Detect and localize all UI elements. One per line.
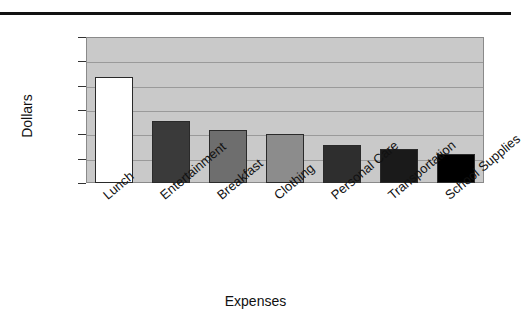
bar-slot [86, 37, 143, 183]
bar-chart-figure: Dollars $0$5$10$15$20$25$30 LunchEnterta… [0, 15, 511, 324]
y-tick-mark [78, 134, 86, 135]
y-tick-mark [78, 110, 86, 111]
x-axis-ticks: LunchEntertainmentBreakfastClothingPerso… [86, 185, 484, 295]
y-tick-mark [78, 61, 86, 62]
y-tick-mark [78, 159, 86, 160]
y-tick-mark [78, 37, 86, 38]
bar-lunch[interactable] [95, 77, 133, 183]
y-tick-mark [78, 183, 86, 184]
x-axis-title: Expenses [0, 293, 511, 309]
y-tick-mark [78, 86, 86, 87]
